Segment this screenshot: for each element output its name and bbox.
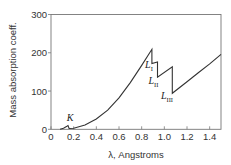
plot-border <box>51 15 221 130</box>
y-axis-title: Mass absorption coeff. <box>7 22 18 117</box>
x-tick-label: 0 <box>48 131 53 142</box>
absorption-chart: 00.20.40.60.81.01.21.4 0100200300 KLILII… <box>0 0 231 165</box>
x-tick-label: 0.2 <box>67 131 80 142</box>
y-tick-label: 200 <box>31 47 47 58</box>
x-axis-title: λ, Angstroms <box>108 149 164 160</box>
x-tick-label: 0.8 <box>135 131 148 142</box>
plot-frame <box>51 15 221 130</box>
x-tick-label: 1.4 <box>203 131 216 142</box>
edge-annotations: KLILIILIII <box>66 59 173 123</box>
y-tick-label: 300 <box>31 9 47 20</box>
x-tick-label: 0.6 <box>112 131 125 142</box>
absorption-curve <box>60 49 221 129</box>
edge-label-k: K <box>66 112 75 123</box>
edge-label-liii: LIII <box>160 90 173 103</box>
y-tick-label: 0 <box>42 124 47 135</box>
y-axis-ticks: 0100200300 <box>31 9 51 135</box>
x-tick-label: 1.0 <box>158 131 171 142</box>
edge-label-lii: LII <box>147 75 158 88</box>
x-tick-label: 0.4 <box>90 131 103 142</box>
y-tick-label: 100 <box>31 86 47 97</box>
x-tick-label: 1.2 <box>180 131 193 142</box>
